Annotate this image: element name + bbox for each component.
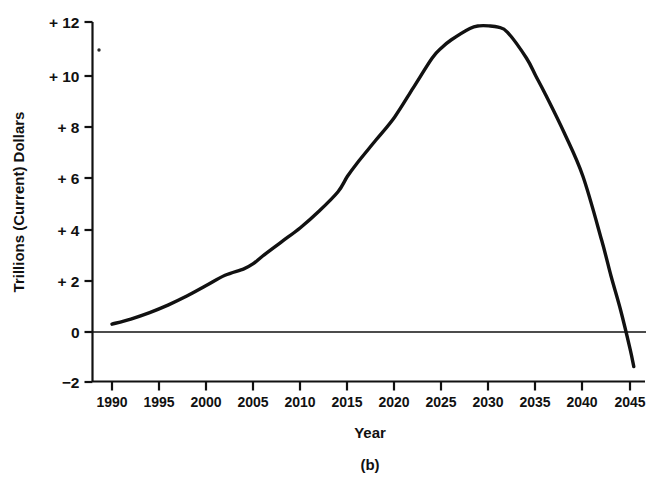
figure-caption: (b): [360, 456, 379, 473]
figure-panel: + 12+ 10+ 8+ 6+ 4+ 20−2 1990199520002005…: [0, 0, 665, 485]
x-tick-label: 1990: [96, 394, 127, 410]
x-tick-label: 2005: [237, 394, 268, 410]
x-tick-label: 2020: [378, 394, 409, 410]
y-tick-label: + 4: [58, 222, 80, 239]
chart-canvas: + 12+ 10+ 8+ 6+ 4+ 20−2 1990199520002005…: [0, 0, 665, 485]
x-tick-label: 1995: [143, 394, 174, 410]
x-tick-label: 2025: [425, 394, 456, 410]
x-tick-marks: [112, 382, 630, 391]
data-series-line: [112, 26, 634, 367]
x-tick-label: 2015: [331, 394, 362, 410]
x-tick-label: 2035: [519, 394, 550, 410]
x-axis-title: Year: [354, 424, 386, 441]
scan-speck-artifact: [97, 48, 100, 51]
y-tick-label: −2: [62, 374, 80, 391]
x-tick-labels: 1990199520002005201020152020202520302035…: [96, 394, 645, 410]
y-tick-labels: + 12+ 10+ 8+ 6+ 4+ 20−2: [49, 14, 80, 391]
y-tick-label: + 10: [49, 68, 80, 85]
y-tick-label: + 8: [58, 119, 80, 136]
y-tick-label: + 6: [58, 170, 80, 187]
x-tick-label: 2010: [284, 394, 315, 410]
y-tick-label: 0: [71, 324, 80, 341]
y-axis-title: Trillions (Current) Dollars: [10, 112, 27, 293]
y-tick-label: + 12: [49, 14, 80, 31]
x-tick-label: 2000: [190, 394, 221, 410]
x-tick-label: 2030: [472, 394, 503, 410]
x-tick-label: 2040: [566, 394, 597, 410]
y-tick-marks: [85, 22, 93, 382]
y-tick-label: + 2: [58, 273, 80, 290]
x-tick-label: 2045: [614, 394, 645, 410]
